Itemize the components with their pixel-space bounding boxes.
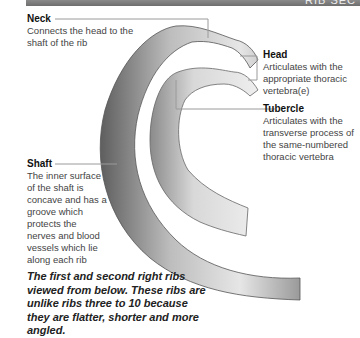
shaft-label: Shaft The inner surface of the shaft is … [27, 158, 107, 266]
head-title: Head [263, 49, 355, 61]
head-description: Articulates with the appropriate thoraci… [263, 61, 347, 96]
shaft-description: The inner surface of the shaft is concav… [27, 170, 107, 265]
head-label: Head Articulates with the appropriate th… [263, 49, 355, 97]
neck-description: Connects the head to the shaft of the ri… [27, 25, 133, 48]
shaft-title: Shaft [27, 158, 107, 170]
tubercle-label: Tubercle Articulates with the transverse… [263, 103, 358, 163]
neck-title: Neck [27, 13, 147, 25]
neck-label: Neck Connects the head to the shaft of t… [27, 13, 147, 49]
figure-caption: The first and second right ribs viewed f… [27, 270, 207, 338]
tubercle-title: Tubercle [263, 103, 358, 115]
tubercle-description: Articulates with the transverse process … [263, 115, 354, 162]
second-rib [150, 68, 258, 236]
